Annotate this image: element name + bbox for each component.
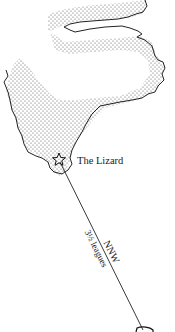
map-canvas: The Lizard NNW 3½ leagues xyxy=(0,0,175,332)
ship-icon xyxy=(136,327,153,332)
place-label: The Lizard xyxy=(77,155,124,166)
